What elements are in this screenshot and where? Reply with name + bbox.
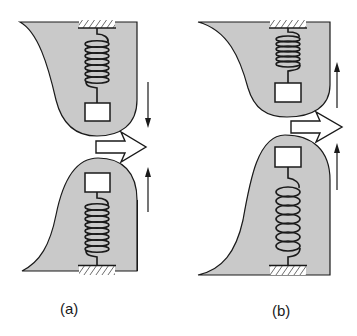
panel-b-top-up-arrow-icon [334, 62, 340, 108]
panel-a-top-mass [85, 103, 110, 121]
panel-b-top-mass [275, 83, 301, 102]
panel-b-top-body [198, 22, 330, 117]
panel-b-top-ground-icon [269, 20, 307, 28]
panel-a-bottom-mass [85, 173, 110, 192]
panel-a-label: (a) [60, 300, 78, 317]
panel-a [20, 20, 151, 275]
panel-b-bottom-body [198, 135, 330, 275]
panel-a-flow-arrow-icon [96, 132, 146, 162]
panel-b-bottom-ground-icon [269, 266, 307, 276]
panel-a-top-body [20, 22, 137, 136]
panel-a-top-down-arrow-icon [145, 82, 151, 128]
diagram-canvas [0, 0, 357, 336]
panel-b-label: (b) [272, 302, 290, 319]
panel-b-bottom-up-arrow-icon [334, 143, 340, 190]
panel-a-bottom-body [22, 158, 137, 271]
panel-b [198, 20, 342, 275]
panel-b-bottom-mass [275, 147, 301, 167]
panel-a-bottom-ground-icon [78, 266, 116, 276]
panel-a-top-ground-icon [78, 20, 116, 28]
panel-a-bottom-up-arrow-icon [145, 167, 151, 212]
